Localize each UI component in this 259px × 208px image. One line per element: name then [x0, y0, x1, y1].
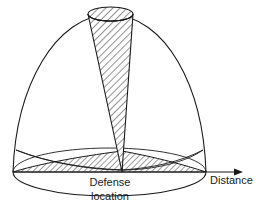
- left-coverage-wedge: [13, 150, 122, 172]
- diagram-canvas: Defense location Distance: [0, 0, 259, 208]
- defense-location-label-line1: Defense: [90, 176, 131, 188]
- distance-axis-label: Distance: [210, 174, 253, 186]
- right-coverage-wedge: [122, 150, 206, 172]
- defense-coverage-figure: Defense location Distance: [0, 0, 259, 208]
- central-narrow-cone: [88, 7, 133, 172]
- defense-location-label-line2: location: [91, 190, 129, 202]
